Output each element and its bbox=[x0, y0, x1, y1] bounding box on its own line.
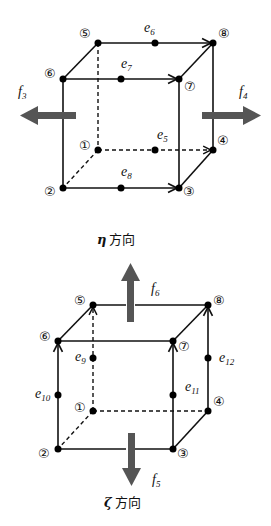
edge-node-e8 bbox=[118, 185, 125, 192]
node-6 bbox=[55, 338, 62, 345]
edge-node-e5 bbox=[152, 147, 159, 154]
node-3 bbox=[170, 446, 177, 453]
edge-node-e10 bbox=[55, 392, 62, 399]
node-8 bbox=[210, 40, 217, 47]
node-label-7: ⑦ bbox=[184, 79, 196, 94]
node-label-6: ⑥ bbox=[39, 329, 51, 344]
edge-node-e9 bbox=[90, 355, 97, 362]
node-label-3: ③ bbox=[183, 184, 195, 199]
node-label-1: ① bbox=[74, 400, 86, 415]
top-edge-7-8 bbox=[179, 43, 213, 79]
node-label-1: ① bbox=[79, 138, 91, 153]
top-edge-3-4 bbox=[179, 150, 213, 188]
force-arrow-left-icon bbox=[20, 106, 76, 125]
edge-node-e6 bbox=[152, 40, 159, 47]
edge-label-e10: e10 bbox=[35, 386, 51, 403]
top-cube: ⑤ ⑧ ⑥ ⑦ ① ④ ② ③ e6 e7 e5 e8 f3 f4 bbox=[18, 20, 261, 199]
node-7 bbox=[170, 338, 177, 345]
node-8 bbox=[205, 302, 212, 309]
top-edge-1-2 bbox=[63, 150, 98, 188]
node-2 bbox=[55, 446, 62, 453]
node-2 bbox=[60, 185, 67, 192]
node-label-8: ⑧ bbox=[213, 293, 225, 308]
edge-label-e11: e11 bbox=[185, 379, 200, 396]
edge-element-diagram: ⑤ ⑧ ⑥ ⑦ ① ④ ② ③ e6 e7 e5 e8 f3 f4 η方向 bbox=[0, 0, 271, 526]
force-arrow-down-icon bbox=[122, 433, 141, 486]
node-1 bbox=[90, 408, 97, 415]
edge-label-e7: e7 bbox=[121, 56, 132, 73]
bottom-edge-7-8 bbox=[173, 305, 208, 341]
edge-node-e11 bbox=[170, 392, 177, 399]
node-label-7: ⑦ bbox=[178, 339, 190, 354]
node-6 bbox=[60, 76, 67, 83]
bottom-edge-6-5 bbox=[58, 305, 93, 341]
edge-label-e6: e6 bbox=[144, 20, 155, 37]
node-7 bbox=[176, 76, 183, 83]
node-label-5: ⑤ bbox=[79, 26, 91, 41]
node-label-3: ③ bbox=[177, 446, 189, 461]
edge-node-e12 bbox=[205, 355, 212, 362]
node-5 bbox=[95, 40, 102, 47]
node-label-4: ④ bbox=[217, 133, 229, 148]
node-label-8: ⑧ bbox=[218, 26, 230, 41]
edge-label-e5: e5 bbox=[157, 127, 168, 144]
node-1 bbox=[95, 147, 102, 154]
node-label-5: ⑤ bbox=[74, 293, 86, 308]
zeta-direction-label: ζ方向 bbox=[104, 495, 141, 510]
bottom-edge-3-4 bbox=[173, 411, 208, 449]
node-4 bbox=[210, 147, 217, 154]
force-label-f5: f5 bbox=[152, 472, 161, 489]
node-label-6: ⑥ bbox=[44, 66, 56, 81]
bottom-edge-1-2 bbox=[58, 411, 93, 449]
top-edge-6-5 bbox=[63, 43, 98, 79]
node-5 bbox=[90, 302, 97, 309]
edge-label-e9: e9 bbox=[75, 349, 86, 366]
node-label-2: ② bbox=[38, 446, 50, 461]
node-label-2: ② bbox=[44, 184, 56, 199]
force-label-f4: f4 bbox=[239, 84, 248, 101]
node-4 bbox=[205, 408, 212, 415]
bottom-cube: η方向 f6 bbox=[35, 232, 235, 510]
force-arrow-right-icon bbox=[202, 106, 261, 125]
edge-node-e7 bbox=[118, 76, 125, 83]
force-label-f6: f6 bbox=[151, 281, 160, 298]
edge-label-e8: e8 bbox=[121, 164, 132, 181]
node-3 bbox=[176, 185, 183, 192]
node-label-4: ④ bbox=[213, 394, 225, 409]
force-label-f3: f3 bbox=[18, 84, 27, 101]
eta-direction-label: η方向 bbox=[97, 232, 135, 247]
force-arrow-up-icon bbox=[121, 263, 140, 322]
edge-label-e12: e12 bbox=[219, 350, 235, 367]
